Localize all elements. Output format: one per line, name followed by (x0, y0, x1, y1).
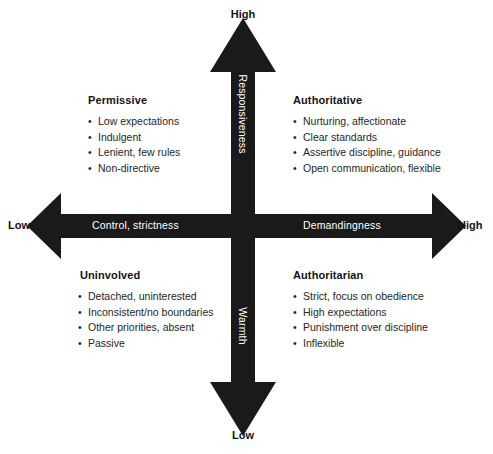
list-item: Punishment over discipline (293, 320, 428, 336)
list-item: Assertive discipline, guidance (293, 145, 441, 161)
list-item: Inflexible (293, 336, 428, 352)
list-item: Lenient, few rules (88, 145, 180, 161)
list-item: Indulgent (88, 130, 180, 146)
axis-label-warmth: Warmth (237, 307, 249, 344)
list-item: Other priorities, absent (78, 320, 214, 336)
quadrant-title: Authoritative (293, 94, 441, 106)
quadrant-authoritative: Authoritative Nurturing, affectionate Cl… (293, 94, 441, 176)
quadrant-title: Permissive (88, 94, 180, 106)
list-item: Detached, uninterested (78, 289, 214, 305)
list-item: Open communication, flexible (293, 161, 441, 177)
list-item: Non-directive (88, 161, 180, 177)
axis-label-control-strictness: Control, strictness (92, 219, 179, 231)
quadrant-list: Detached, uninterested Inconsistent/no b… (78, 289, 214, 351)
axis-endcap-top-high: High (231, 8, 255, 20)
list-item: Inconsistent/no boundaries (78, 305, 214, 321)
list-item: Low expectations (88, 114, 180, 130)
axis-arrow-cross (0, 0, 493, 454)
quadrant-permissive: Permissive Low expectations Indulgent Le… (88, 94, 180, 176)
quadrant-list: Low expectations Indulgent Lenient, few … (88, 114, 180, 176)
axis-label-demandingness: Demandingness (303, 219, 381, 231)
list-item: High expectations (293, 305, 428, 321)
quadrant-title: Uninvolved (80, 269, 214, 281)
list-item: Passive (78, 336, 214, 352)
quadrant-title: Authoritarian (293, 269, 428, 281)
quadrant-uninvolved: Uninvolved Detached, uninterested Incons… (78, 269, 214, 351)
list-item: Nurturing, affectionate (293, 114, 441, 130)
axis-label-responsiveness: Responsiveness (237, 74, 249, 153)
quadrant-diagram: Control, strictness Demandingness Respon… (0, 0, 493, 454)
quadrant-authoritarian: Authoritarian Strict, focus on obedience… (293, 269, 428, 351)
quadrant-list: Strict, focus on obedience High expectat… (293, 289, 428, 351)
list-item: Clear standards (293, 130, 441, 146)
axis-endcap-bottom-low: Low (232, 429, 254, 441)
list-item: Strict, focus on obedience (293, 289, 428, 305)
axis-endcap-right-high: High (458, 219, 482, 231)
quadrant-list: Nurturing, affectionate Clear standards … (293, 114, 441, 176)
axis-endcap-left-low: Low (8, 219, 30, 231)
